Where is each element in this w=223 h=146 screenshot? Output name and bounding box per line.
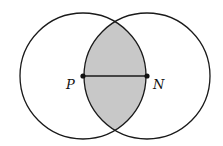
point-n (144, 73, 149, 78)
point-p (80, 73, 85, 78)
diagram: P N (0, 0, 223, 146)
label-p: P (65, 77, 75, 92)
label-n: N (152, 77, 165, 92)
